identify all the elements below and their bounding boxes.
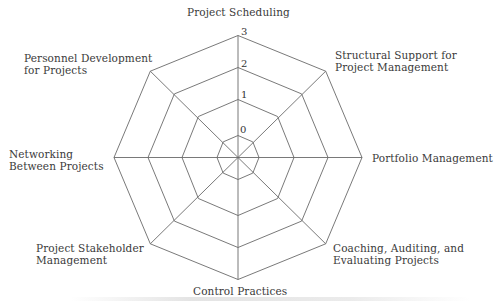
axis-label-line: Evaluating Projects bbox=[333, 254, 464, 266]
tick-label-3: 3 bbox=[241, 27, 247, 37]
axis-label-line: Between Projects bbox=[9, 160, 104, 172]
spoke-1 bbox=[238, 71, 326, 157]
axis-label-line: Structural Support for bbox=[335, 49, 457, 61]
axis-label-project-scheduling: Project Scheduling bbox=[187, 6, 290, 18]
axis-label-networking: Networking Between Projects bbox=[9, 148, 104, 172]
axis-label-coaching-auditing: Coaching, Auditing, and Evaluating Proje… bbox=[333, 242, 464, 266]
spoke-3 bbox=[238, 158, 326, 244]
axis-label-structural-support: Structural Support for Project Managemen… bbox=[335, 49, 457, 73]
scan-shadow bbox=[70, 297, 470, 301]
tick-label-1: 1 bbox=[241, 90, 247, 100]
axis-label-line: Networking bbox=[9, 148, 104, 160]
axis-label-line: Personnel Development bbox=[24, 52, 152, 64]
axis-label-control-practices: Control Practices bbox=[193, 285, 287, 297]
axis-label-line: Project Management bbox=[335, 61, 457, 73]
axis-label-personnel-development: Personnel Development for Projects bbox=[24, 52, 152, 76]
axis-label-portfolio-management: Portfolio Management bbox=[372, 152, 493, 164]
axis-label-stakeholder-management: Project Stakeholder Management bbox=[36, 242, 144, 266]
tick-label-0: 0 bbox=[240, 125, 246, 135]
axis-label-line: Coaching, Auditing, and bbox=[333, 242, 464, 254]
spoke-5 bbox=[150, 158, 238, 244]
axis-label-line: Project Stakeholder bbox=[36, 242, 144, 254]
tick-label-2: 2 bbox=[241, 59, 247, 69]
spoke-7 bbox=[150, 71, 238, 157]
axis-label-line: for Projects bbox=[24, 64, 152, 76]
axis-label-line: Management bbox=[36, 254, 144, 266]
